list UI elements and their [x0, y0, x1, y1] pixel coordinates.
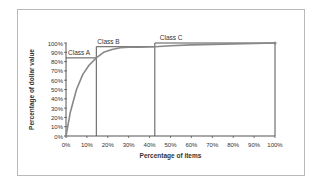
y-tick-label: 80% [51, 59, 64, 65]
x-tick-label: 40% [144, 142, 157, 148]
x-tick-label: 100% [267, 142, 283, 148]
x-tick-label: 0% [62, 142, 71, 148]
x-tick-label: 10% [81, 142, 94, 148]
class-c-boundary [155, 43, 275, 136]
x-tick-label: 70% [206, 142, 219, 148]
y-tick-label: 70% [51, 68, 64, 74]
abc-analysis-chart: 0%10%20%30%40%50%60%70%80%90%100%0%10%20… [0, 0, 324, 190]
x-tick-label: 80% [227, 142, 240, 148]
class-b-label: Class B [97, 38, 119, 45]
x-tick-label: 60% [185, 142, 198, 148]
class-a-label: Class A [68, 49, 91, 56]
y-tick-label: 40% [51, 96, 64, 102]
x-tick-label: 30% [123, 142, 136, 148]
x-axis-label: Percentage of items [140, 152, 202, 160]
y-tick-label: 50% [51, 87, 64, 93]
y-tick-label: 10% [51, 124, 64, 130]
x-tick-label: 50% [164, 142, 177, 148]
class-b-boundary [96, 47, 155, 136]
y-tick-label: 0% [54, 134, 63, 140]
y-axis-label: Percentage of dollar value [28, 49, 36, 130]
x-tick-label: 20% [102, 142, 115, 148]
y-tick-label: 100% [48, 41, 64, 47]
class-c-label: Class C [160, 34, 183, 41]
cumulative-curve [66, 43, 275, 136]
y-tick-label: 30% [51, 106, 64, 112]
y-tick-label: 20% [51, 115, 64, 121]
x-tick-label: 90% [248, 142, 261, 148]
y-tick-label: 90% [51, 50, 64, 56]
start-point-marker [65, 135, 68, 138]
end-point-marker [274, 42, 277, 45]
y-tick-label: 60% [51, 78, 64, 84]
